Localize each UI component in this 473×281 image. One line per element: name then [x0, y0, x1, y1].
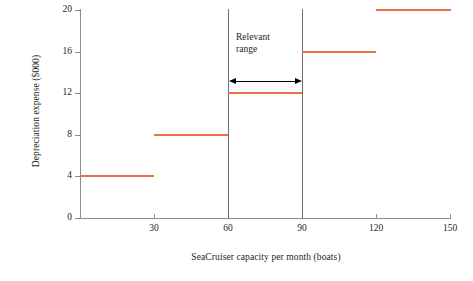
- step-segment-20: [376, 9, 451, 11]
- step-segment-4: [81, 175, 154, 177]
- y-tick-0: [75, 218, 80, 219]
- step-segment-8: [154, 134, 228, 136]
- relevant-range-guide-left: [228, 9, 229, 219]
- x-tick-label-60: 60: [208, 224, 248, 234]
- x-tick-label-90: 90: [282, 224, 322, 234]
- y-axis-line: [80, 9, 81, 219]
- y-tick-20: [75, 10, 80, 11]
- x-tick-label-120: 120: [356, 224, 396, 234]
- y-tick-label-16: 16: [38, 47, 72, 57]
- y-tick-12: [75, 93, 80, 94]
- y-axis-title: Depreciation expense ($000): [31, 11, 41, 211]
- relevant-range-arrow-right-head: [295, 78, 302, 84]
- relevant-range-label-line2: range: [236, 44, 257, 56]
- chart-figure: Depreciation expense ($000) SeaCruiser c…: [0, 0, 473, 281]
- y-tick-label-12: 12: [38, 88, 72, 98]
- y-tick-label-0: 0: [38, 213, 72, 223]
- step-segment-12: [228, 92, 302, 94]
- relevant-range-arrow-shaft: [231, 81, 299, 82]
- y-tick-8: [75, 135, 80, 136]
- relevant-range-guide-right: [302, 9, 303, 219]
- x-tick-120: [376, 214, 377, 219]
- relevant-range-arrow-left-head: [229, 78, 236, 84]
- y-tick-label-20: 20: [38, 5, 72, 15]
- y-tick-label-8: 8: [38, 130, 72, 140]
- x-axis-title: SeaCruiser capacity per month (boats): [80, 252, 452, 262]
- x-tick-30: [154, 214, 155, 219]
- x-tick-150: [450, 214, 451, 219]
- relevant-range-label-line1: Relevant: [236, 32, 270, 44]
- step-segment-16: [302, 51, 376, 53]
- y-tick-label-4: 4: [38, 171, 72, 181]
- y-tick-4: [75, 176, 80, 177]
- x-tick-label-150: 150: [430, 224, 470, 234]
- y-tick-16: [75, 52, 80, 53]
- x-tick-label-30: 30: [134, 224, 174, 234]
- x-axis-line: [80, 218, 451, 219]
